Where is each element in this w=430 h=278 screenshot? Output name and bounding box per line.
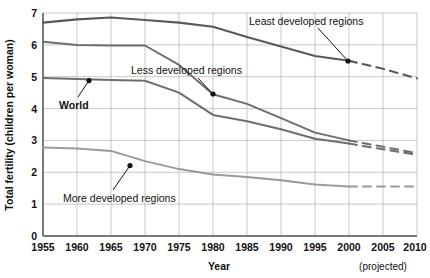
y-tick-1: 1 — [31, 198, 37, 210]
y-tick-6: 6 — [31, 39, 37, 51]
annotation-label-world: World — [59, 99, 89, 111]
x-tick-2000: 2000 — [337, 241, 361, 253]
projected-note: (projected) — [359, 261, 407, 272]
y-axis-title: Total fertility (children per woman) — [3, 39, 15, 210]
y-axis-tick-labels: 7 6 5 4 3 2 1 0 — [31, 7, 37, 242]
x-tick-1960: 1960 — [65, 241, 89, 253]
x-tick-1955: 1955 — [31, 241, 55, 253]
x-tick-1970: 1970 — [133, 241, 157, 253]
annotation-label-more-developed: More developed regions — [63, 192, 176, 204]
x-tick-1990: 1990 — [269, 241, 293, 253]
x-tick-1980: 1980 — [201, 241, 225, 253]
x-tick-2005: 2005 — [371, 241, 395, 253]
chart-canvas: Least developed regions Less developed r… — [0, 0, 430, 278]
fertility-line-chart: Least developed regions Less developed r… — [0, 0, 430, 278]
x-tick-1995: 1995 — [303, 241, 327, 253]
y-tick-2: 2 — [31, 166, 37, 178]
x-tick-1965: 1965 — [99, 241, 123, 253]
y-tick-4: 4 — [31, 103, 37, 115]
annotation-label-least-developed: Least developed regions — [249, 15, 363, 27]
x-axis-tick-labels: 1955 1960 1965 1970 1975 1980 1985 1990 … — [31, 241, 427, 253]
x-axis-title: Year — [208, 260, 230, 272]
y-tick-3: 3 — [31, 134, 37, 146]
y-tick-7: 7 — [31, 7, 37, 19]
annotation-label-less-developed: Less developed regions — [131, 64, 242, 76]
x-tick-1985: 1985 — [235, 241, 259, 253]
y-tick-5: 5 — [31, 71, 37, 83]
x-tick-2010: 2010 — [403, 241, 427, 253]
x-tick-1975: 1975 — [167, 241, 191, 253]
